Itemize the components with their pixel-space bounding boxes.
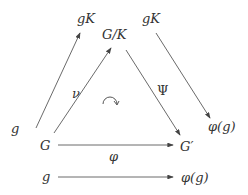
node-g-bottom: g (42, 170, 50, 183)
label-phi: φ (109, 150, 118, 163)
node-G-prime: G′ (180, 140, 193, 153)
node-g-left: g (11, 122, 19, 135)
label-nu: ν (72, 87, 80, 100)
arrow-psi (126, 50, 180, 135)
node-phi-g-right: φ(g) (208, 120, 236, 133)
arrow-nu (54, 48, 111, 133)
node-gK-left: gK (77, 12, 95, 25)
arrow-g-to-gK (36, 33, 80, 128)
node-G: G (40, 139, 50, 152)
label-psi: Ψ (157, 84, 168, 97)
node-phi-g-bottom: φ(g) (181, 171, 209, 184)
node-G-over-K: G/K (102, 28, 126, 41)
node-gK-right: gK (142, 12, 160, 25)
arrow-gK-to-phig (156, 33, 210, 118)
